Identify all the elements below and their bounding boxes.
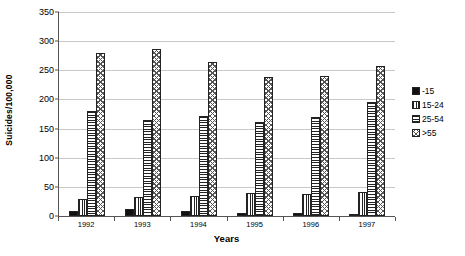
x-axis-tick-label-1995: 1995 [227,217,283,231]
x-axis-tick-mark [227,217,228,221]
bar-1997--15 [349,214,358,216]
bar-group-1993 [125,12,161,216]
legend-item--15: -15 [412,84,465,98]
x-axis-tick-mark [170,217,171,221]
legend-label: >55 [422,128,436,138]
bar-1996-25-54 [311,117,320,216]
legend-swatch-vertical-icon [412,101,420,109]
y-axis-tick-label: 150 [39,124,54,134]
bar-group-1997 [349,12,385,216]
bar-group-1992 [69,12,105,216]
bar-1995-25-54 [255,122,264,216]
y-axis-tick-label: 350 [39,7,54,17]
bar-1994--15 [181,211,190,216]
y-axis-tick-label: 300 [39,36,54,46]
legend: -1515-2425-54>55 [412,84,465,140]
x-axis-tick-mark [283,217,284,221]
legend-label: 15-24 [422,100,444,110]
bar-1996--15 [293,213,302,216]
legend-label: -15 [422,86,434,96]
bar-1996-15-24 [302,194,311,216]
x-axis-tick-labels: 199219931994199519961997 [58,217,395,231]
y-axis-tick-label: 250 [39,65,54,75]
bar-1992->55 [96,53,105,216]
x-axis-tick-label-1993: 1993 [114,217,170,231]
y-axis-tick-label: 50 [44,182,54,192]
plot-area: 050100150200250300350 [58,12,395,217]
bar-group-1996 [293,12,329,216]
x-axis-tick-mark [339,217,340,221]
y-axis-tick-label: 200 [39,94,54,104]
bar-1996->55 [320,76,329,216]
bar-group-1995 [237,12,273,216]
bar-1992-15-24 [78,199,87,216]
legend-label: 25-54 [422,114,444,124]
y-axis-tick-label: 0 [49,211,54,221]
y-axis-tick-label: 100 [39,153,54,163]
bar-chart-figure: Suicides/100,000 050100150200250300350 1… [0,0,465,256]
bar-1993-25-54 [143,120,152,216]
legend-swatch-crosshatch-icon [412,129,420,137]
x-axis-tick-label-1997: 1997 [339,217,395,231]
bar-1995-15-24 [246,193,255,216]
x-axis-tick-mark [114,217,115,221]
bar-group-1994 [181,12,217,216]
bar-1994-15-24 [190,196,199,216]
y-axis-title-text: Suicides/100,000 [4,74,14,145]
legend-item-25-54: 25-54 [412,112,465,126]
bar-1995--15 [237,213,246,216]
bar-1992-25-54 [87,111,96,216]
y-axis-title: Suicides/100,000 [0,0,18,220]
bar-1997-15-24 [358,192,367,216]
x-axis-tick-mark [58,217,59,221]
bar-1997-25-54 [367,102,376,216]
bar-1992--15 [69,211,78,216]
bar-groups [59,12,395,216]
bar-1995->55 [264,77,273,216]
bar-1994-25-54 [199,116,208,216]
bar-1997->55 [376,66,385,216]
legend-item-15-24: 15-24 [412,98,465,112]
legend-item->55: >55 [412,126,465,140]
legend-swatch-solid-icon [412,87,420,95]
x-axis-title: Years [58,233,395,244]
x-axis-tick-label-1996: 1996 [283,217,339,231]
bar-1993-15-24 [134,197,143,216]
bar-1993--15 [125,209,134,216]
bar-1993->55 [152,49,161,216]
legend-swatch-horizontal-icon [412,115,420,123]
x-axis-tick-label-1994: 1994 [170,217,226,231]
x-axis-tick-mark [395,217,396,221]
x-axis-tick-label-1992: 1992 [58,217,114,231]
bar-1994->55 [208,62,217,216]
